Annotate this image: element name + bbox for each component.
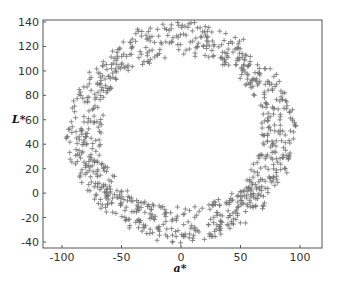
svg-text:140: 140 — [18, 16, 39, 29]
svg-text:120: 120 — [18, 40, 39, 53]
svg-text:-40: -40 — [21, 236, 39, 249]
svg-text:-50: -50 — [113, 251, 131, 264]
axes: -100-50050100140120100806040200-20-40 — [18, 16, 311, 264]
svg-text:40: 40 — [25, 138, 39, 151]
svg-text:100: 100 — [290, 251, 311, 264]
y-axis-label: L* — [11, 113, 26, 126]
svg-text:-100: -100 — [50, 251, 75, 264]
svg-text:50: 50 — [234, 251, 248, 264]
svg-text:0: 0 — [32, 187, 39, 200]
svg-text:20: 20 — [25, 163, 39, 176]
svg-text:100: 100 — [18, 65, 39, 78]
data-points — [64, 20, 299, 245]
scatter-chart: -100-50050100140120100806040200-20-40 a*… — [0, 0, 337, 282]
svg-text:80: 80 — [25, 89, 39, 102]
svg-text:60: 60 — [25, 114, 39, 127]
x-axis-label: a* — [174, 262, 187, 275]
svg-text:-20: -20 — [21, 212, 39, 225]
